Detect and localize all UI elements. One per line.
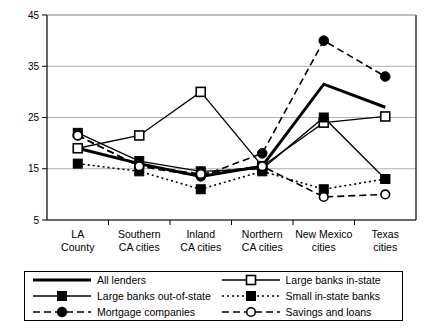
line-chart-plot: 515253545LACountySouthernCA citiesInland… [0,0,427,270]
legend-swatch [220,305,282,319]
y-tick-label: 25 [28,112,40,123]
legend-item[interactable]: All lenders [25,272,214,288]
x-axis-labels: LACountySouthernCA citiesInlandCA cities… [61,228,399,253]
x-tick-label: County [61,241,95,253]
legend-label: All lenders [93,274,146,286]
x-tick-label: CA cities [119,241,160,253]
marker-open-square [246,276,255,285]
x-tick-label: New Mexico [295,228,352,240]
legend-sample-icon [220,273,282,287]
marker-open-circle [258,162,267,171]
series-line [78,135,386,197]
series-line [78,92,386,166]
marker-filled-square [319,113,328,122]
axes [47,15,416,225]
legend-swatch [220,289,282,303]
marker-open-square [135,131,144,140]
x-tick-label: CA cities [242,241,283,253]
series-line [78,164,386,190]
x-tick-label: CA cities [180,241,221,253]
legend-sample-icon [31,289,93,303]
marker-open-circle [73,131,82,140]
x-tick-label: cities [312,241,336,253]
series-line [78,41,386,177]
legend-label: Large banks in-state [282,274,381,286]
x-tick-label: cities [373,241,397,253]
legend-sample-icon [31,305,93,319]
legend-swatch [220,273,282,287]
legend-item[interactable]: Small in-state banks [214,288,403,304]
x-tick-label: Inland [186,228,215,240]
marker-filled-square [246,292,255,301]
marker-open-circle [246,308,255,317]
marker-filled-square [58,292,67,301]
chart-container: 515253545LACountySouthernCA citiesInland… [0,0,427,330]
marker-filled-circle [380,72,390,82]
series-small-in-state-banks [73,159,390,194]
series-line [78,84,386,176]
marker-filled-square [196,185,205,194]
chart-legend: All lendersLarge banks in-stateLarge ban… [24,271,403,321]
legend-swatch [31,289,93,303]
marker-open-circle [319,193,328,202]
marker-filled-square [381,175,390,184]
marker-filled-circle [257,149,267,159]
marker-open-square [73,144,82,153]
legend-item[interactable]: Savings and loans [214,304,403,320]
legend-sample-icon [31,273,93,287]
legend-swatch [31,273,93,287]
legend-item[interactable]: Large banks in-state [214,272,403,288]
y-tick-label: 45 [28,10,40,21]
marker-open-circle [135,162,144,171]
legend-sample-icon [220,305,282,319]
x-tick-label: LA [71,228,84,240]
x-tick-label: Texas [372,228,399,240]
legend-sample-icon [220,289,282,303]
y-tick-label: 35 [28,61,40,72]
series-all-lenders [78,84,386,176]
legend-label: Large banks out-of-state [93,290,211,302]
x-tick-label: Northern [242,228,283,240]
legend-item[interactable]: Mortgage companies [25,304,214,320]
marker-filled-circle [57,307,67,317]
legend-item[interactable]: Large banks out-of-state [25,288,214,304]
legend-label: Mortgage companies [93,306,195,318]
legend-label: Savings and loans [282,306,372,318]
marker-open-circle [381,190,390,199]
marker-filled-circle [319,36,329,46]
y-tick-label: 5 [33,215,39,226]
marker-filled-square [73,159,82,168]
series-savings-and-loans [73,131,389,201]
marker-open-square [381,112,390,121]
series-large-banks-out-of-state [73,113,390,184]
y-tick-label: 15 [28,163,40,174]
legend-label: Small in-state banks [282,290,381,302]
legend-swatch [31,305,93,319]
marker-open-square [196,87,205,96]
marker-open-circle [196,170,205,179]
x-tick-label: Southern [118,228,161,240]
